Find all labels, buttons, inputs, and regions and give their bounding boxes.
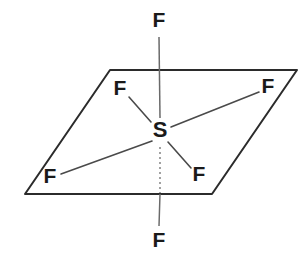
bond-axial-top: [159, 37, 160, 118]
bond-lower-left: [61, 141, 152, 174]
molecule-canvas: S F F F F F F: [0, 0, 306, 267]
atom-label-sulfur: S: [153, 117, 168, 142]
bond-axial-bottom: [159, 194, 160, 226]
molecular-structure-diagram: S F F F F F F: [0, 0, 306, 267]
bond-lower-right: [168, 142, 191, 168]
atom-label-fluorine-axial-top: F: [153, 8, 166, 31]
atom-label-fluorine-lower-left: F: [44, 164, 57, 187]
atom-label-fluorine-axial-bottom: F: [153, 228, 166, 251]
atom-label-fluorine-upper-left: F: [114, 76, 127, 99]
bond-upper-left: [129, 97, 151, 122]
atom-label-fluorine-lower-right: F: [193, 162, 206, 185]
bond-upper-right: [171, 92, 259, 127]
atom-label-fluorine-upper-right: F: [262, 74, 275, 97]
